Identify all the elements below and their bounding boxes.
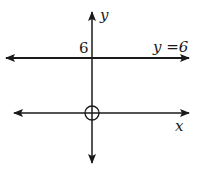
graph-canvas: y 6 y =6 x bbox=[0, 0, 217, 171]
x-axis-label: x bbox=[175, 117, 184, 135]
y-axis-label: y bbox=[99, 6, 109, 24]
y-intercept-label: 6 bbox=[79, 39, 89, 57]
line-equation-label: y =6 bbox=[152, 38, 189, 56]
